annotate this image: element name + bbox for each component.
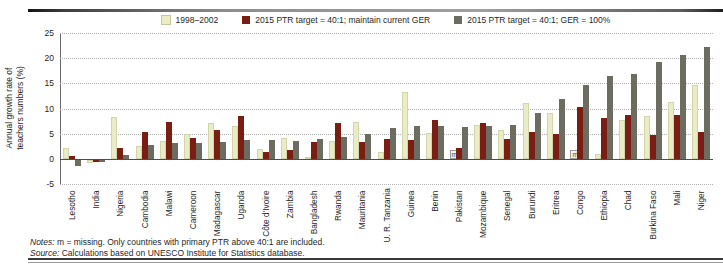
x-axis-label: Zambia bbox=[284, 190, 295, 242]
x-axis-label: Ethiopia bbox=[599, 190, 610, 242]
y-tick-label: 0 bbox=[28, 154, 54, 164]
y-tick-label: 15 bbox=[28, 78, 54, 88]
bar-chad bbox=[631, 74, 637, 159]
legend-label: 2015 PTR target = 40:1; maintain current… bbox=[255, 15, 430, 25]
x-axis-label: Mozambique bbox=[478, 190, 489, 242]
x-axis-label: Eritrea bbox=[550, 190, 561, 242]
bar-mauritania bbox=[365, 134, 371, 159]
bottom-rule bbox=[28, 258, 723, 263]
x-axis-label: Pakistan bbox=[454, 190, 465, 242]
legend-swatch bbox=[161, 15, 171, 25]
legend-item: 2015 PTR target = 40:1; maintain current… bbox=[242, 15, 430, 25]
legend-label: 2015 PTR target = 40:1; GER = 100% bbox=[467, 15, 610, 25]
gridline bbox=[60, 83, 713, 84]
x-axis-label: Benin bbox=[429, 190, 440, 242]
bar-congo bbox=[583, 85, 589, 159]
notes-line: Notes: m = missing. Only countries with … bbox=[30, 237, 325, 248]
figure-page: 1998–20022015 PTR target = 40:1; maintai… bbox=[0, 0, 723, 268]
gridline bbox=[60, 33, 713, 34]
y-axis-title: Annual growth rate of teachers numbers (… bbox=[4, 60, 26, 156]
bar-niger bbox=[704, 47, 710, 159]
source-label: Source: bbox=[30, 248, 59, 258]
y-tick-label: 5 bbox=[28, 129, 54, 139]
x-axis-label: Guinea bbox=[405, 190, 416, 242]
x-axis-label: Bangladesh bbox=[308, 190, 319, 242]
bar-cameroon bbox=[196, 143, 202, 159]
bar-eritrea bbox=[559, 99, 565, 159]
gridline bbox=[60, 109, 713, 110]
gridline bbox=[60, 58, 713, 59]
legend-swatch bbox=[454, 16, 462, 24]
notes-text: m = missing. Only countries with primary… bbox=[57, 237, 325, 247]
gridline bbox=[60, 134, 713, 135]
bar-cambodia bbox=[148, 145, 154, 159]
legend-item: 2015 PTR target = 40:1; GER = 100% bbox=[454, 15, 610, 25]
x-axis-label: Rwanda bbox=[333, 190, 344, 242]
x-axis-label: Uganda bbox=[236, 190, 247, 242]
chart-legend: 1998–20022015 PTR target = 40:1; maintai… bbox=[0, 15, 723, 25]
x-axis-label: Cameroon bbox=[188, 190, 199, 242]
x-axis-label: U. R. Tanzania bbox=[381, 190, 392, 242]
y-tick-label: -5 bbox=[28, 179, 54, 189]
bar-malawi bbox=[172, 143, 178, 159]
legend-swatch bbox=[242, 16, 250, 24]
bar-madagascar bbox=[220, 142, 226, 159]
bar-bangladesh bbox=[317, 139, 323, 159]
bar-uganda bbox=[244, 140, 250, 159]
x-axis-label: Côte d'Ivoire bbox=[260, 190, 271, 242]
x-axis-label: Madagascar bbox=[212, 190, 223, 242]
x-axis-label: Mauritania bbox=[357, 190, 368, 242]
notes-label: Notes: bbox=[30, 237, 55, 247]
bar-india bbox=[99, 160, 105, 162]
bar-u-r-tanzania bbox=[390, 128, 396, 159]
x-axis-label: Burundi bbox=[526, 190, 537, 242]
bar-guinea bbox=[414, 126, 420, 159]
bar-senegal bbox=[510, 125, 516, 159]
bar-benin bbox=[438, 126, 444, 159]
bar-c-te-d-ivoire bbox=[269, 140, 275, 159]
legend-item: 1998–2002 bbox=[161, 15, 219, 25]
x-axis-label: Mali bbox=[671, 190, 682, 242]
bar-mozambique bbox=[486, 126, 492, 159]
y-tick-label: 10 bbox=[28, 104, 54, 114]
x-axis-label: India bbox=[91, 190, 102, 242]
x-axis-label: Cambodia bbox=[139, 190, 150, 242]
x-axis-label: Congo bbox=[574, 190, 585, 242]
bar-lesotho bbox=[75, 160, 81, 166]
bar-chart-plot: LesothoIndiaNigeriaCambodiaMalawiCameroo… bbox=[60, 33, 713, 184]
bar-rwanda bbox=[341, 137, 347, 159]
bar-ethiopia bbox=[607, 76, 613, 159]
x-axis-zero-line bbox=[60, 159, 713, 160]
bar-pakistan bbox=[462, 127, 468, 159]
bar-nigeria bbox=[123, 155, 129, 159]
x-axis-label: Chad bbox=[623, 190, 634, 242]
x-axis-label: Senegal bbox=[502, 190, 513, 242]
x-axis-label: Lesotho bbox=[67, 190, 78, 242]
source-text: Calculations based on UNESCO Institute f… bbox=[62, 248, 305, 258]
y-tick-label: 20 bbox=[28, 53, 54, 63]
x-axis-label: Nigeria bbox=[115, 190, 126, 242]
bar-lesotho bbox=[69, 156, 75, 159]
bar-burkina-faso bbox=[656, 62, 662, 159]
gridline bbox=[60, 184, 713, 185]
x-axis-label: Niger bbox=[695, 190, 706, 242]
top-rule bbox=[28, 9, 723, 12]
y-tick-label: 25 bbox=[28, 28, 54, 38]
bar-mali bbox=[680, 55, 686, 159]
x-axis-label: Burkina Faso bbox=[647, 190, 658, 242]
x-axis-label: Malawi bbox=[163, 190, 174, 242]
bar-zambia bbox=[293, 141, 299, 159]
figure-notes: Notes: m = missing. Only countries with … bbox=[30, 237, 325, 259]
bar-burundi bbox=[535, 113, 541, 159]
legend-label: 1998–2002 bbox=[176, 15, 219, 25]
